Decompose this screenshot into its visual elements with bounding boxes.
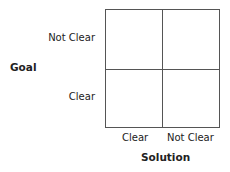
y-tick-clear: Clear bbox=[69, 91, 95, 102]
x-axis-label: Solution bbox=[141, 151, 190, 163]
quadrant-grid bbox=[105, 9, 220, 128]
x-tick-clear: Clear bbox=[122, 132, 148, 143]
x-tick-not-clear: Not Clear bbox=[167, 132, 214, 143]
horizontal-divider bbox=[106, 69, 219, 70]
y-tick-not-clear: Not Clear bbox=[48, 32, 95, 43]
y-axis-label: Goal bbox=[10, 61, 37, 73]
